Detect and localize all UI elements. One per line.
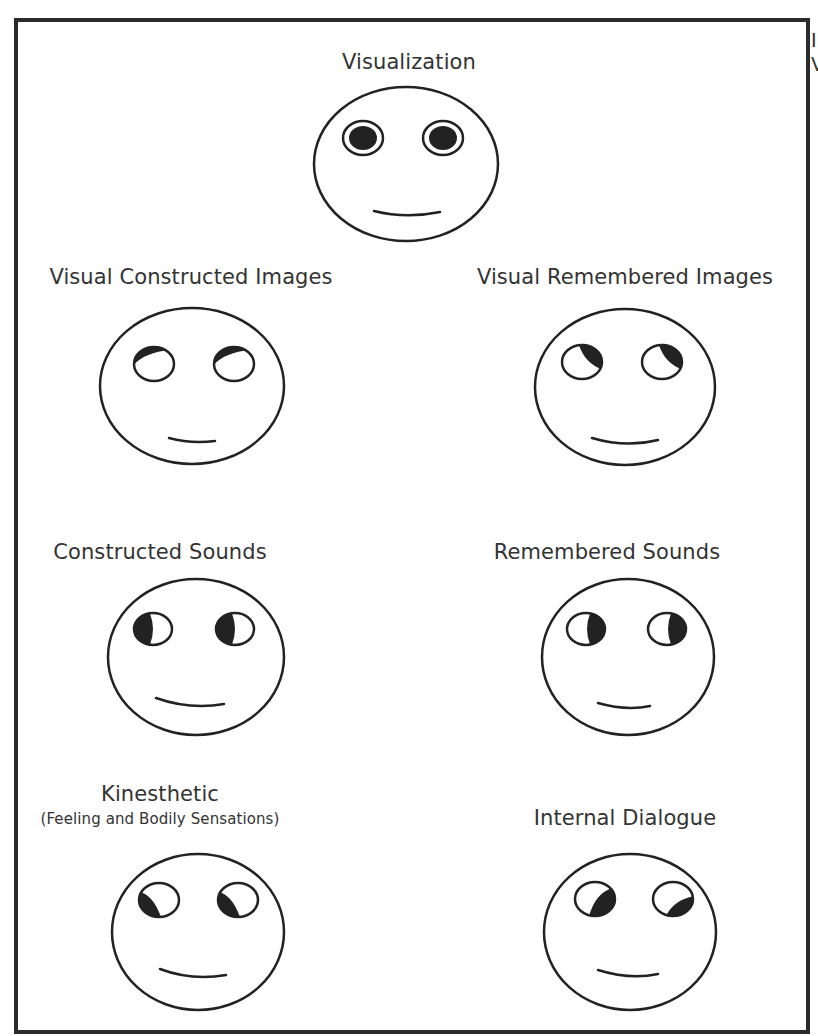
label-visual-remembered: Visual Remembered Images	[450, 265, 800, 289]
label-kinesthetic: Kinesthetic (Feeling and Bodily Sensatio…	[40, 782, 280, 831]
face-visual-constructed	[96, 300, 292, 472]
label-visualization: Visualization	[307, 50, 511, 74]
face-title: Visual Remembered Images	[477, 265, 773, 289]
label-internal-dialogue: Internal Dialogue	[510, 806, 740, 830]
face-kinesthetic	[100, 848, 296, 1016]
label-remembered-sounds: Remembered Sounds	[482, 540, 732, 564]
face-visualization	[312, 85, 502, 245]
face-subtitle: (Feeling and Bodily Sensations)	[40, 807, 280, 831]
cutoff-letter: I	[811, 28, 818, 52]
face-title: Constructed Sounds	[53, 540, 267, 564]
face-visual-remembered	[528, 302, 724, 474]
face-internal-dialogue	[532, 848, 728, 1016]
label-constructed-sounds: Constructed Sounds	[40, 540, 280, 564]
face-title: Kinesthetic	[101, 782, 219, 806]
face-constructed-sounds	[98, 573, 294, 741]
cutoff-side-text: I V	[811, 28, 818, 78]
eye-left	[343, 121, 383, 155]
face-remembered-sounds	[530, 573, 726, 741]
eye-right	[423, 121, 463, 155]
label-visual-constructed: Visual Constructed Images	[26, 265, 356, 289]
face-title: Internal Dialogue	[534, 806, 716, 830]
face-title: Visualization	[342, 50, 476, 74]
cutoff-letter: V	[811, 52, 818, 76]
face-title: Remembered Sounds	[494, 540, 721, 564]
face-title: Visual Constructed Images	[49, 265, 332, 289]
